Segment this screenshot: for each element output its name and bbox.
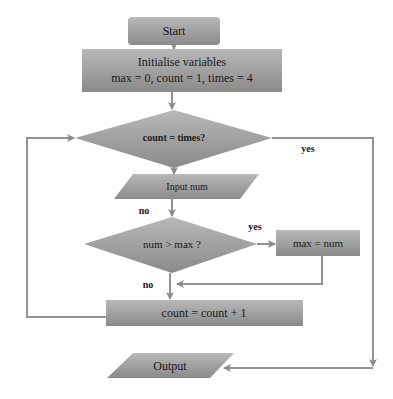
input-label: Input num <box>166 181 207 192</box>
edge-label-count-no: no <box>139 205 150 216</box>
edge-increment-loop <box>27 162 106 317</box>
start-label: Start <box>163 24 186 39</box>
edge-label-count-yes: yes <box>301 143 314 154</box>
output-label: Output <box>153 359 186 374</box>
init-label-line2: max = 0, count = 1, times = 4 <box>111 71 253 86</box>
increment-label: count = count + 1 <box>162 306 247 321</box>
assign-max-label: max = num <box>293 237 343 249</box>
cond-count-label: count = times? <box>143 132 205 143</box>
cond-max-label: num > max ? <box>143 238 201 250</box>
edge-label-max-no: no <box>143 279 154 290</box>
edge-label-max-yes: yes <box>248 221 261 232</box>
init-label-line1: Initialise variables <box>138 55 226 70</box>
edge-loop-to-cond <box>27 138 74 162</box>
